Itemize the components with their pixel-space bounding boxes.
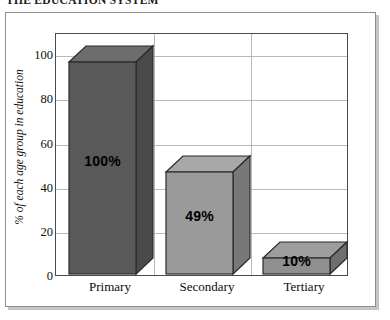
- figure-frame: % of each age group in education 0 20 40…: [5, 12, 376, 307]
- bar-primary-value: 100%: [69, 153, 136, 169]
- bar-tertiary[interactable]: 10%: [263, 242, 330, 275]
- x-label-secondary: Secondary: [158, 279, 256, 295]
- plot-area: 100% 49% 10%: [55, 33, 348, 276]
- bar-secondary[interactable]: 49%: [166, 156, 233, 275]
- y-tick-label-0: 0: [19, 269, 53, 284]
- x-axis-labels: Primary Secondary Tertiary: [55, 279, 348, 301]
- y-tick-label-20: 20: [19, 224, 53, 239]
- gridline-category-2: [251, 34, 252, 275]
- bar-chart: % of each age group in education 0 20 40…: [6, 13, 377, 308]
- y-axis-ticks: 0 20 40 60 80 100: [14, 33, 53, 276]
- y-tick-label-60: 60: [19, 136, 53, 151]
- y-tick-label-100: 100: [19, 48, 53, 63]
- x-label-primary: Primary: [61, 279, 159, 295]
- bar-primary[interactable]: 100%: [69, 46, 136, 275]
- bar-primary-side-face: [136, 46, 153, 274]
- y-tick-label-40: 40: [19, 180, 53, 195]
- y-tick-label-80: 80: [19, 92, 53, 107]
- bar-secondary-side-face: [233, 156, 250, 274]
- bar-secondary-value: 49%: [166, 208, 233, 224]
- document-title: THE EDUCATION SYSTEM: [6, 0, 336, 7]
- x-label-tertiary: Tertiary: [255, 279, 353, 295]
- bar-tertiary-value: 10%: [263, 253, 330, 269]
